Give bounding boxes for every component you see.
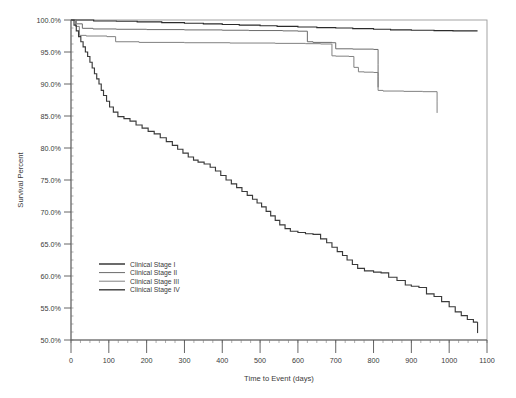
y-axis-tick-label: 100.0%: [37, 16, 62, 25]
y-axis-tick-label: 95.0%: [41, 48, 62, 57]
x-axis-tick-label: 800: [368, 356, 380, 365]
plot-background: [0, 0, 516, 398]
chart-page: 50.0%55.0%60.0%65.0%70.0%75.0%80.0%85.0%…: [0, 0, 516, 398]
legend-label: Clinical Stage IV: [130, 286, 180, 294]
x-axis-tick-label: 500: [254, 356, 266, 365]
y-axis-tick-label: 60.0%: [41, 272, 62, 281]
x-axis-tick-label: 900: [405, 356, 417, 365]
survival-chart-container: 50.0%55.0%60.0%65.0%70.0%75.0%80.0%85.0%…: [0, 0, 516, 398]
survival-plot: 50.0%55.0%60.0%65.0%70.0%75.0%80.0%85.0%…: [0, 0, 516, 398]
x-axis-tick-label: 700: [330, 356, 342, 365]
y-axis-tick-label: 55.0%: [41, 304, 62, 313]
x-axis-tick-label: 0: [69, 356, 73, 365]
y-axis-tick-label: 90.0%: [41, 80, 62, 89]
x-axis-tick-label: 200: [141, 356, 153, 365]
y-axis-tick-label: 50.0%: [41, 336, 62, 345]
x-axis-tick-label: 300: [178, 356, 190, 365]
x-axis-tick-label: 100: [103, 356, 115, 365]
y-axis-tick-label: 65.0%: [41, 240, 62, 249]
x-axis-tick-label: 400: [216, 356, 228, 365]
legend-label: Clinical Stage II: [130, 269, 177, 277]
legend-label: Clinical Stage III: [130, 278, 179, 286]
y-axis-tick-label: 75.0%: [41, 176, 62, 185]
x-axis-tick-label: 600: [292, 356, 304, 365]
legend-label: Clinical Stage I: [130, 261, 175, 269]
x-axis-tick-label: 1000: [441, 356, 457, 365]
y-axis-tick-label: 70.0%: [41, 208, 62, 217]
y-axis-tick-label: 85.0%: [41, 112, 62, 121]
y-axis-tick-label: 80.0%: [41, 144, 62, 153]
y-axis-title: Survival Percent: [16, 151, 25, 207]
x-axis-tick-label: 1100: [479, 356, 494, 365]
x-axis-title: Time to Event (days): [244, 374, 314, 383]
